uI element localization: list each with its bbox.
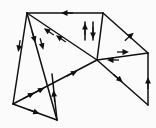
figure-container — [0, 0, 156, 128]
figure-background — [0, 0, 156, 128]
directed-edge-diagram — [0, 0, 156, 128]
